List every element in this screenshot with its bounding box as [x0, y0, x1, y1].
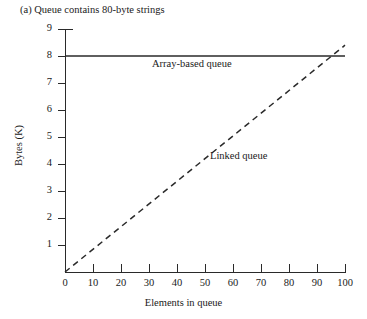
series-label-array-based-queue: Array-based queue	[152, 58, 232, 69]
series-label-linked-queue: Linked queue	[210, 150, 267, 161]
figure-container: (a) Queue contains 80-byte strings 12345…	[0, 0, 367, 319]
series-layer	[0, 0, 367, 319]
series-linked-queue	[65, 45, 345, 272]
